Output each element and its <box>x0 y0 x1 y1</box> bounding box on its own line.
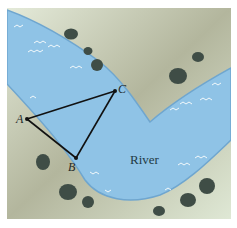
bush <box>91 59 103 71</box>
bush <box>64 29 78 40</box>
label-a: A <box>15 112 24 126</box>
bush <box>169 68 187 84</box>
river-label: River <box>130 152 160 167</box>
point-c <box>113 89 117 93</box>
bush <box>84 47 93 55</box>
label-b: B <box>68 160 76 174</box>
bush <box>180 193 196 207</box>
bush <box>153 206 165 216</box>
point-a <box>25 117 29 121</box>
bush <box>36 154 50 170</box>
label-c: C <box>118 82 127 96</box>
bush <box>192 52 204 62</box>
bush <box>199 178 215 194</box>
river-triangle-diagram: A B C River <box>0 0 237 228</box>
bush <box>59 184 77 200</box>
bush <box>82 196 94 208</box>
